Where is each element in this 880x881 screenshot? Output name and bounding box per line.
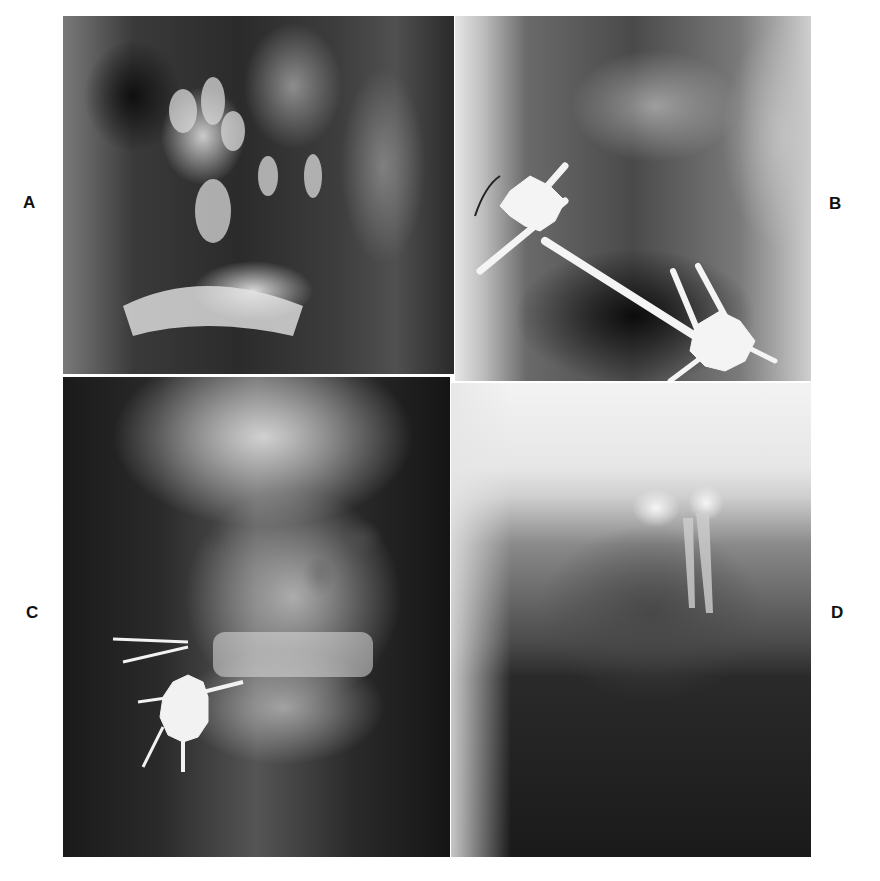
panel-label-b: B — [829, 195, 841, 212]
panel-d-radiograph — [451, 383, 811, 857]
radiograph-figure: A B — [0, 0, 880, 881]
panel-d-teeth-overlay — [451, 383, 811, 857]
panel-label-a: A — [23, 194, 35, 211]
panel-c-radiograph — [63, 377, 450, 857]
panel-b-radiograph — [455, 16, 811, 381]
panel-a-radiograph — [63, 16, 454, 374]
panel-label-c: C — [26, 604, 38, 621]
panel-a-teeth-overlay — [63, 16, 454, 374]
fixation-clamp-icon — [63, 377, 450, 857]
fixation-hardware-icon — [455, 16, 811, 381]
panel-label-d: D — [831, 604, 843, 621]
